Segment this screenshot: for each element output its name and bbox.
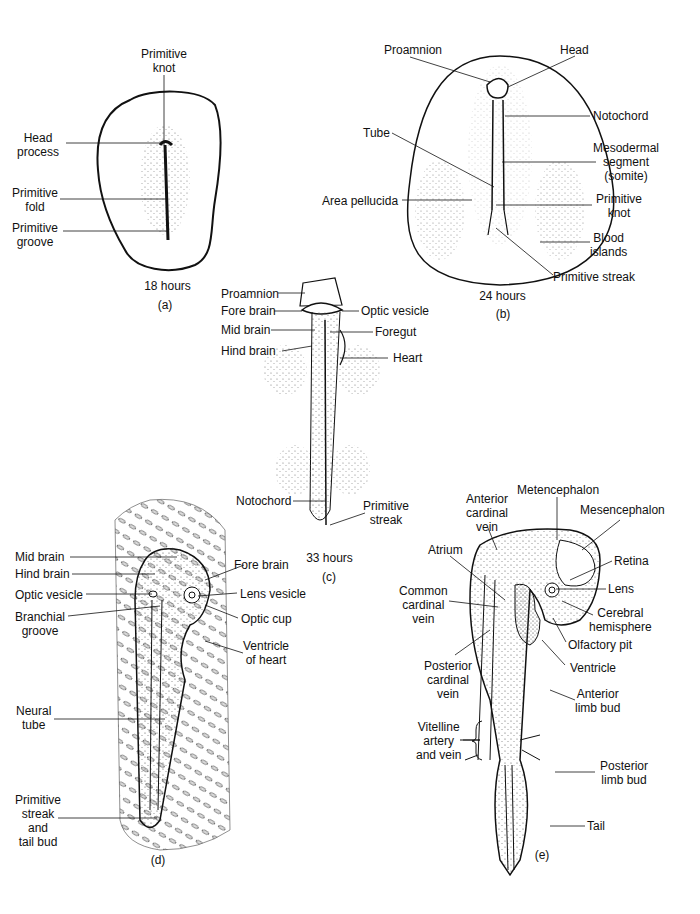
label-line: artery <box>416 734 461 748</box>
caption-d: (d) <box>143 853 173 867</box>
label-line: knot <box>141 61 187 75</box>
label-line: Ventricle <box>243 639 289 653</box>
label-line: vein <box>466 520 508 534</box>
label-b-primitive-knot: Primitive knot <box>596 192 642 220</box>
panel-a-drawing <box>97 92 220 270</box>
label-line: hemisphere <box>589 620 652 634</box>
label-b-blood-islands: Blood islands <box>590 231 627 259</box>
label-a-primitive-groove: Primitive groove <box>12 221 58 249</box>
label-e-posterior-cardinal-vein: Posterior cardinal vein <box>424 659 472 701</box>
label-c-heart: Heart <box>393 351 422 365</box>
label-line: Cerebral <box>589 606 652 620</box>
label-a-primitive-knot: Primitive knot <box>141 47 187 75</box>
label-line: Mesodermal <box>593 141 659 155</box>
label-line: tube <box>16 718 51 732</box>
label-e-cerebral-hemisphere: Cerebral hemisphere <box>589 606 652 634</box>
label-line: cardinal <box>466 506 508 520</box>
label-e-tail: Tail <box>587 819 605 833</box>
label-line: cardinal <box>424 673 472 687</box>
stage-c: 33 hours <box>302 551 357 565</box>
label-line: fold <box>12 200 58 214</box>
label-d-mid-brain: Mid brain <box>15 550 64 564</box>
label-a-primitive-fold: Primitive fold <box>12 186 58 214</box>
label-line: groove <box>15 624 65 638</box>
label-e-vitelline-artery-vein: Vitelline artery and vein <box>416 720 461 762</box>
label-e-posterior-limb-bud: Posterior limb bud <box>600 759 648 787</box>
label-line: Branchial <box>15 610 65 624</box>
label-line: and <box>15 821 61 835</box>
label-line: Primitive <box>12 221 58 235</box>
label-line: process <box>17 145 59 159</box>
label-b-head: Head <box>560 43 589 57</box>
caption-a: (a) <box>150 298 180 312</box>
label-c-primitive-streak: Primitive streak <box>363 499 409 527</box>
label-line: vein <box>399 612 448 626</box>
label-line: vein <box>424 687 472 701</box>
stage-a: 18 hours <box>140 279 195 293</box>
label-d-optic-vesicle: Optic vesicle <box>15 588 83 602</box>
label-line: Posterior <box>600 759 648 773</box>
label-line: Anterior <box>575 687 620 701</box>
label-d-primitive-streak-tail-bud: Primitive streak and tail bud <box>15 793 61 849</box>
label-line: streak <box>363 513 409 527</box>
label-c-notochord: Notochord <box>236 494 291 508</box>
label-line: Primitive <box>15 793 61 807</box>
label-line: limb bud <box>600 773 648 787</box>
label-e-atrium: Atrium <box>428 543 463 557</box>
label-b-primitive-streak: Primitive streak <box>553 270 635 284</box>
label-c-proamnion: Proamnion <box>221 287 279 301</box>
label-b-proamnion: Proamnion <box>384 43 442 57</box>
label-c-foregut: Foregut <box>375 325 416 339</box>
label-line: segment <box>593 155 659 169</box>
label-d-optic-cup: Optic cup <box>241 612 292 626</box>
panel-d-drawing <box>115 499 230 850</box>
label-line: groove <box>12 235 58 249</box>
label-b-tube: Tube <box>363 126 390 140</box>
label-c-hind-brain: Hind brain <box>221 344 276 358</box>
label-line: knot <box>596 206 642 220</box>
caption-e: (e) <box>527 848 557 862</box>
label-e-olfactory-pit: Olfactory pit <box>568 638 632 652</box>
label-d-lens-vesicle: Lens vesicle <box>240 587 306 601</box>
label-e-metencephalon: Metencephalon <box>517 483 599 497</box>
caption-c: (c) <box>314 570 344 584</box>
label-line: cardinal <box>399 598 448 612</box>
label-c-mid-brain: Mid brain <box>221 323 270 337</box>
label-b-mesodermal-segment: Mesodermal segment (somite) <box>593 141 659 183</box>
label-line: Primitive <box>596 192 642 206</box>
panel-b-drawing <box>408 56 614 285</box>
label-line: streak <box>15 807 61 821</box>
label-d-hind-brain: Hind brain <box>15 567 70 581</box>
label-e-mesencephalon: Mesencephalon <box>580 503 665 517</box>
label-d-ventricle-of-heart: Ventricle of heart <box>243 639 289 667</box>
label-line: Primitive <box>141 47 187 61</box>
stage-b: 24 hours <box>475 289 530 303</box>
label-e-ventricle: Ventricle <box>570 661 616 675</box>
label-line: Vitelline <box>416 720 461 734</box>
label-d-branchial-groove: Branchial groove <box>15 610 65 638</box>
label-e-anterior-cardinal-vein: Anterior cardinal vein <box>466 492 508 534</box>
label-line: Head <box>17 131 59 145</box>
label-line: of heart <box>243 653 289 667</box>
label-line: Primitive <box>363 499 409 513</box>
label-e-common-cardinal-vein: Common cardinal vein <box>399 584 448 626</box>
label-line: Anterior <box>466 492 508 506</box>
label-c-optic-vesicle: Optic vesicle <box>361 304 429 318</box>
label-line: Common <box>399 584 448 598</box>
label-e-retina: Retina <box>614 554 649 568</box>
label-c-fore-brain: Fore brain <box>221 304 276 318</box>
label-e-lens: Lens <box>608 582 634 596</box>
embryo-illustrations <box>0 0 700 914</box>
label-line: islands <box>590 245 627 259</box>
label-line: tail bud <box>15 835 61 849</box>
label-e-anterior-limb-bud: Anterior limb bud <box>575 687 620 715</box>
label-b-notochord: Notochord <box>593 109 648 123</box>
label-line: and vein <box>416 748 461 762</box>
label-d-neural-tube: Neural tube <box>16 704 51 732</box>
label-line: (somite) <box>593 169 659 183</box>
label-line: Neural <box>16 704 51 718</box>
label-a-head-process: Head process <box>17 131 59 159</box>
label-line: Posterior <box>424 659 472 673</box>
label-d-fore-brain: Fore brain <box>234 558 289 572</box>
label-line: Primitive <box>12 186 58 200</box>
